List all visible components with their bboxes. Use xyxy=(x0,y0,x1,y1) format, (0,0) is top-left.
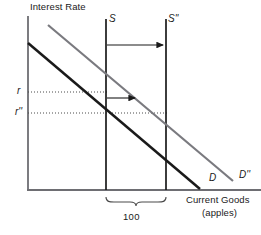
demand-curve-d-label: D xyxy=(209,173,216,184)
demand-curve-d-double-prime-label: D'' xyxy=(239,170,250,181)
y-axis-label: Interest Rate xyxy=(30,2,86,12)
supply-curve-s-double-prime-label: S'' xyxy=(168,14,179,25)
demand-curve-d-double-prime xyxy=(48,25,233,181)
quantity-bracket-label: 100 xyxy=(123,212,140,222)
x-axis-label-line1: Current Goods xyxy=(186,195,250,205)
demand-curve-d xyxy=(28,43,200,189)
interest-rate-current-goods-diagram: Interest Rate S S'' D D'' r r'' 100 Curr… xyxy=(0,0,261,235)
quantity-bracket xyxy=(106,197,166,206)
interest-rate-r-label: r xyxy=(17,86,20,97)
supply-curve-s-label: S xyxy=(109,14,116,25)
x-axis-label-line2: (apples) xyxy=(202,208,237,218)
interest-rate-r-double-prime-label: r'' xyxy=(15,107,22,118)
